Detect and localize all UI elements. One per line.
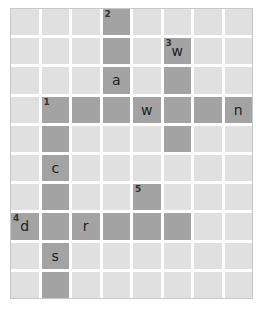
crossword-cell-active[interactable]: 1 bbox=[42, 97, 70, 123]
crossword-grid: 23wa1wnc54drs bbox=[10, 8, 253, 299]
crossword-cell-empty[interactable] bbox=[72, 9, 100, 35]
crossword-cell-empty[interactable] bbox=[194, 184, 222, 210]
crossword-cell-empty[interactable] bbox=[194, 9, 222, 35]
crossword-cell-empty[interactable] bbox=[103, 155, 131, 181]
crossword-cell-empty[interactable] bbox=[11, 97, 39, 123]
crossword-cell-empty[interactable] bbox=[72, 184, 100, 210]
crossword-cell-active[interactable]: 2 bbox=[103, 9, 131, 35]
crossword-cell-empty[interactable] bbox=[194, 213, 222, 239]
crossword-cell-active[interactable]: c bbox=[42, 155, 70, 181]
crossword-cell-empty[interactable] bbox=[225, 38, 253, 64]
crossword-cell-active[interactable]: w bbox=[133, 97, 161, 123]
clue-number: 2 bbox=[105, 9, 111, 20]
crossword-cell-empty[interactable] bbox=[164, 272, 192, 298]
crossword-cell-empty[interactable] bbox=[164, 9, 192, 35]
crossword-cell-empty[interactable] bbox=[11, 67, 39, 93]
crossword-cell-empty[interactable] bbox=[225, 67, 253, 93]
crossword-cell-empty[interactable] bbox=[103, 243, 131, 269]
cell-letter: n bbox=[225, 97, 253, 123]
crossword-cell-empty[interactable] bbox=[72, 126, 100, 152]
crossword-cell-empty[interactable] bbox=[11, 272, 39, 298]
crossword-cell-active[interactable] bbox=[164, 126, 192, 152]
crossword-cell-active[interactable] bbox=[103, 38, 131, 64]
crossword-cell-empty[interactable] bbox=[42, 38, 70, 64]
crossword-cell-empty[interactable] bbox=[11, 155, 39, 181]
crossword-cell-empty[interactable] bbox=[103, 184, 131, 210]
crossword-cell-empty[interactable] bbox=[72, 67, 100, 93]
crossword-cell-empty[interactable] bbox=[194, 126, 222, 152]
crossword-cell-empty[interactable] bbox=[103, 126, 131, 152]
crossword-cell-empty[interactable] bbox=[225, 213, 253, 239]
crossword-cell-active[interactable] bbox=[72, 97, 100, 123]
crossword-cell-empty[interactable] bbox=[225, 243, 253, 269]
crossword-cell-empty[interactable] bbox=[72, 38, 100, 64]
cell-letter: w bbox=[164, 38, 192, 64]
clue-number: 5 bbox=[135, 184, 141, 195]
crossword-cell-empty[interactable] bbox=[225, 9, 253, 35]
crossword-cell-active[interactable] bbox=[42, 126, 70, 152]
crossword-cell-empty[interactable] bbox=[164, 184, 192, 210]
crossword-cell-empty[interactable] bbox=[194, 243, 222, 269]
crossword-cell-active[interactable] bbox=[164, 97, 192, 123]
crossword-cell-empty[interactable] bbox=[194, 272, 222, 298]
cell-letter: d bbox=[11, 213, 39, 239]
crossword-cell-empty[interactable] bbox=[194, 67, 222, 93]
clue-number: 1 bbox=[44, 97, 50, 108]
crossword-cell-empty[interactable] bbox=[42, 9, 70, 35]
crossword-cell-empty[interactable] bbox=[133, 155, 161, 181]
crossword-cell-active[interactable] bbox=[103, 97, 131, 123]
crossword-cell-empty[interactable] bbox=[225, 155, 253, 181]
crossword-cell-active[interactable] bbox=[42, 272, 70, 298]
crossword-cell-active[interactable] bbox=[42, 184, 70, 210]
crossword-cell-active[interactable]: 3w bbox=[164, 38, 192, 64]
cell-letter: c bbox=[42, 155, 70, 181]
cell-letter: r bbox=[72, 213, 100, 239]
crossword-cell-active[interactable]: n bbox=[225, 97, 253, 123]
cell-letter: w bbox=[133, 97, 161, 123]
crossword-cell-active[interactable] bbox=[103, 213, 131, 239]
crossword-cell-empty[interactable] bbox=[194, 155, 222, 181]
cell-letter: a bbox=[103, 67, 131, 93]
crossword-cell-active[interactable]: s bbox=[42, 243, 70, 269]
crossword-cell-empty[interactable] bbox=[133, 126, 161, 152]
crossword-cell-empty[interactable] bbox=[225, 272, 253, 298]
crossword-cell-empty[interactable] bbox=[225, 184, 253, 210]
crossword-cell-active[interactable]: 5 bbox=[133, 184, 161, 210]
crossword-cell-active[interactable]: r bbox=[72, 213, 100, 239]
crossword-cell-empty[interactable] bbox=[133, 67, 161, 93]
crossword-cell-empty[interactable] bbox=[164, 155, 192, 181]
crossword-cell-empty[interactable] bbox=[133, 272, 161, 298]
crossword-cell-empty[interactable] bbox=[42, 67, 70, 93]
crossword-cell-empty[interactable] bbox=[133, 9, 161, 35]
crossword-cell-empty[interactable] bbox=[11, 9, 39, 35]
crossword-cell-empty[interactable] bbox=[72, 272, 100, 298]
crossword-cell-active[interactable] bbox=[164, 67, 192, 93]
crossword-cell-empty[interactable] bbox=[133, 243, 161, 269]
cell-letter: s bbox=[42, 243, 70, 269]
crossword-cell-active[interactable] bbox=[164, 213, 192, 239]
crossword-cell-empty[interactable] bbox=[164, 243, 192, 269]
crossword-cell-empty[interactable] bbox=[72, 243, 100, 269]
crossword-cell-active[interactable] bbox=[194, 97, 222, 123]
crossword-cell-empty[interactable] bbox=[11, 184, 39, 210]
crossword-cell-empty[interactable] bbox=[11, 126, 39, 152]
crossword-cell-empty[interactable] bbox=[133, 38, 161, 64]
crossword-cell-active[interactable]: a bbox=[103, 67, 131, 93]
crossword-cell-active[interactable] bbox=[133, 213, 161, 239]
crossword-cell-empty[interactable] bbox=[103, 272, 131, 298]
crossword-cell-empty[interactable] bbox=[194, 38, 222, 64]
crossword-cell-empty[interactable] bbox=[225, 126, 253, 152]
crossword-cell-empty[interactable] bbox=[11, 243, 39, 269]
crossword-cell-active[interactable] bbox=[42, 213, 70, 239]
crossword-cell-active[interactable]: 4d bbox=[11, 213, 39, 239]
crossword-cell-empty[interactable] bbox=[72, 155, 100, 181]
crossword-cell-empty[interactable] bbox=[11, 38, 39, 64]
